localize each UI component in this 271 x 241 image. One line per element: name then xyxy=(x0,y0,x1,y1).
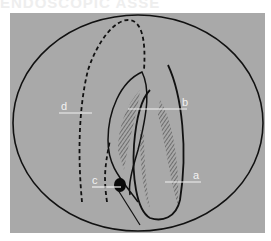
label-c: c xyxy=(92,175,98,186)
inner-hatched-strip xyxy=(140,130,150,210)
right-hatched-region xyxy=(158,100,178,205)
label-d: d xyxy=(61,101,67,112)
anatomical-diagram xyxy=(0,0,271,241)
label-b: b xyxy=(182,97,188,108)
dark-spot xyxy=(114,178,126,192)
label-a: a xyxy=(193,170,199,181)
left-hatched-region xyxy=(118,90,140,170)
